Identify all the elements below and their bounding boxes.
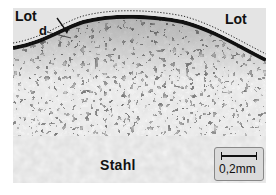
label-lot-left: Lot bbox=[15, 9, 37, 23]
scale-bar-box: 0,2mm bbox=[214, 147, 264, 181]
label-d-thickness: d bbox=[39, 24, 47, 37]
label-lot-right: Lot bbox=[225, 12, 247, 26]
scale-bar-line bbox=[221, 155, 257, 157]
micrograph: Lot d Lot Stahl 0,2mm bbox=[13, 8, 266, 183]
scale-bar-label: 0,2mm bbox=[219, 162, 256, 176]
label-stahl: Stahl bbox=[100, 158, 136, 172]
